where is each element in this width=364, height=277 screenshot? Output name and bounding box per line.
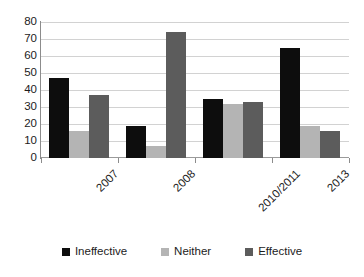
y-tick-label-10: 10	[3, 135, 37, 147]
bar-group-2013	[280, 22, 340, 158]
bar-effective-2013[interactable]	[320, 131, 340, 158]
legend-label-neither: Neither	[174, 246, 211, 258]
bar-neither-2007[interactable]	[69, 131, 89, 158]
bar-effective-2008[interactable]	[166, 32, 186, 158]
legend-label-ineffective: Ineffective	[75, 246, 127, 258]
x-axis-label-2008: 2008	[171, 168, 197, 194]
x-axis-label-2010-2011: 2010/2011	[257, 168, 303, 214]
y-tick-label-40: 40	[3, 84, 37, 96]
y-tick-label-70: 70	[3, 33, 37, 45]
chart-legend: IneffectiveNeitherEffective	[0, 246, 364, 258]
x-axis-label-2007: 2007	[94, 168, 120, 194]
y-tick-label-20: 20	[3, 118, 37, 130]
plot-area	[41, 22, 349, 158]
bar-neither-2010-2011[interactable]	[223, 104, 243, 158]
legend-swatch-icon-effective	[245, 248, 253, 256]
y-tick-label-0: 0	[3, 152, 37, 164]
bar-chart: 01020304050607080 200720082010/20112013 …	[0, 0, 364, 277]
x-tick-2007	[41, 158, 42, 163]
y-tick-label-60: 60	[3, 50, 37, 62]
bar-group-2010-2011	[203, 22, 263, 158]
x-tick-2010-2011	[195, 158, 196, 163]
legend-item-effective[interactable]: Effective	[245, 246, 302, 258]
y-tick-label-80: 80	[3, 16, 37, 28]
legend-label-effective: Effective	[258, 246, 302, 258]
x-tick-2013	[272, 158, 273, 163]
bar-ineffective-2013[interactable]	[280, 48, 300, 159]
legend-item-ineffective[interactable]: Ineffective	[62, 246, 127, 258]
y-tick-label-30: 30	[3, 101, 37, 113]
bar-ineffective-2008[interactable]	[126, 126, 146, 158]
bar-group-2007	[49, 22, 109, 158]
legend-swatch-icon-neither	[161, 248, 169, 256]
x-axis-label-2013: 2013	[325, 168, 351, 194]
y-tick-label-50: 50	[3, 67, 37, 79]
bar-ineffective-2007[interactable]	[49, 78, 69, 158]
legend-swatch-icon-ineffective	[62, 248, 70, 256]
bar-neither-2013[interactable]	[300, 126, 320, 158]
y-axis-tick-labels: 01020304050607080	[0, 22, 37, 158]
bar-ineffective-2010-2011[interactable]	[203, 99, 223, 159]
bar-effective-2007[interactable]	[89, 95, 109, 158]
bar-effective-2010-2011[interactable]	[243, 102, 263, 158]
legend-item-neither[interactable]: Neither	[161, 246, 211, 258]
bar-group-2008	[126, 22, 186, 158]
bar-neither-2008[interactable]	[146, 146, 166, 158]
x-tick-2008	[118, 158, 119, 163]
x-tick-end	[349, 158, 350, 163]
